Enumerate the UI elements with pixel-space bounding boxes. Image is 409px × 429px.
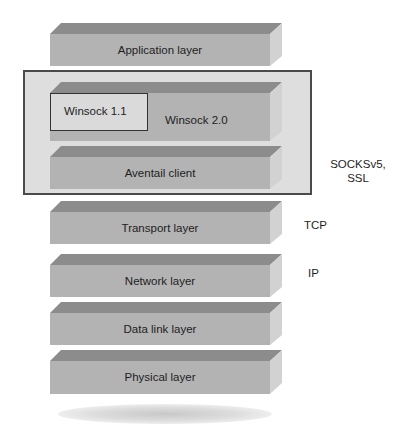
application-layer-block: Application layer [50, 23, 282, 66]
transport-layer-block: Transport layer [50, 201, 282, 244]
winsock-1-1-box: Winsock 1.1 [50, 93, 148, 131]
transport-layer-label: Transport layer [50, 212, 270, 244]
ip-label: IP [308, 266, 319, 280]
socks-ssl-label: SOCKSv5, SSL [328, 157, 388, 185]
protocol-stack-diagram: Application layer Winsock 1.1 Winsock 2.… [0, 0, 409, 429]
application-layer-label: Application layer [50, 34, 270, 66]
winsock-2-0-label: Winsock 2.0 [165, 114, 228, 126]
aventail-client-label: Aventail client [50, 157, 270, 189]
floor-shadow [58, 404, 272, 424]
network-layer-label: Network layer [50, 265, 270, 297]
physical-layer-label: Physical layer [50, 361, 270, 393]
physical-layer-block: Physical layer [50, 350, 282, 393]
aventail-client-block: Aventail client [50, 146, 282, 189]
ssl-label: SSL [328, 171, 388, 185]
data-link-layer-label: Data link layer [50, 313, 270, 345]
network-layer-block: Network layer [50, 254, 282, 297]
tcp-label: TCP [304, 218, 327, 232]
data-link-layer-block: Data link layer [50, 302, 282, 345]
socks-label: SOCKSv5, [328, 157, 388, 171]
